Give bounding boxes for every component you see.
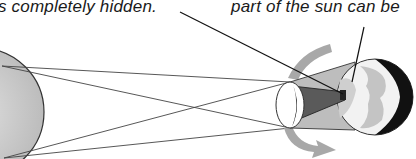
earth xyxy=(337,59,413,135)
eclipse-diagram: s completely hidden. part of the sun can… xyxy=(0,0,416,159)
diagram-canvas xyxy=(0,0,416,159)
moon xyxy=(276,82,304,128)
sun xyxy=(0,48,44,159)
light-rays xyxy=(2,66,290,158)
